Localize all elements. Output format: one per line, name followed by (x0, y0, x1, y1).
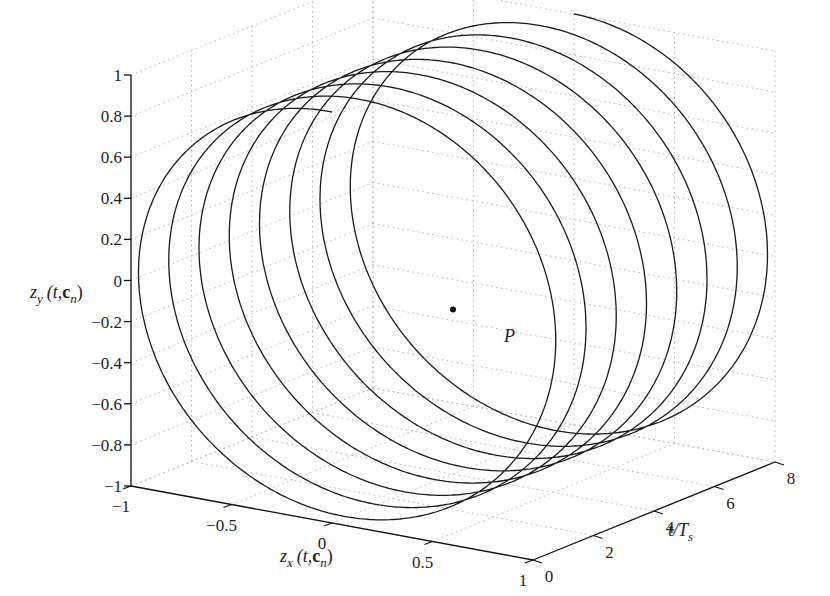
t-axis-label: t/Ts (668, 520, 693, 544)
tick-label: 1 (519, 571, 528, 590)
tick-label: −0.6 (91, 395, 122, 414)
tick-labels: 10.80.60.40.20−0.2−0.4−0.6−0.8−1−1−0.500… (91, 66, 795, 590)
tick-label: −0.4 (91, 354, 122, 373)
tick-label: 0.6 (101, 148, 122, 167)
tick-label: −0.8 (91, 436, 122, 455)
tick-label: −0.2 (91, 313, 122, 332)
tick-label: 0 (114, 272, 123, 291)
tick-label: −0.5 (206, 516, 237, 535)
tick-label: 0.4 (101, 189, 123, 208)
tick-label: 0.2 (101, 230, 122, 249)
tick-label: 0.8 (101, 107, 122, 126)
tick-label: 2 (605, 543, 614, 562)
point-p-label: P (503, 326, 515, 346)
z-axis-label: zy(t,cn) (29, 282, 83, 306)
chart-3d-plot: 10.80.60.40.20−0.2−0.4−0.6−0.8−1−1−0.500… (0, 0, 830, 596)
tick-label: −1 (112, 497, 130, 516)
tick-label: 1 (114, 66, 123, 85)
tick-label: 0.5 (412, 553, 433, 572)
tick-label: 8 (787, 469, 796, 488)
axes (123, 75, 784, 563)
trajectory-curve (139, 14, 768, 520)
tick-label: 0 (545, 567, 554, 586)
tick-label: 6 (726, 494, 735, 513)
tick-label: −1 (104, 477, 122, 496)
